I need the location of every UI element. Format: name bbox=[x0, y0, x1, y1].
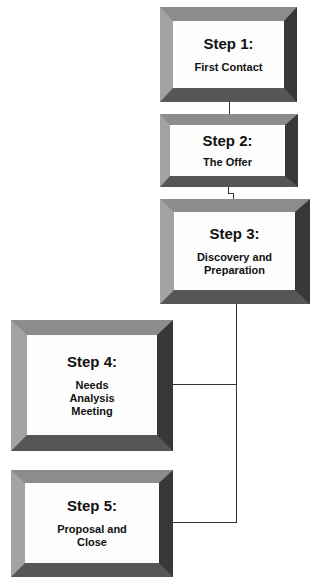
step-2-description: The Offer bbox=[203, 156, 252, 169]
connector-3-5 bbox=[172, 522, 237, 523]
step-1-title: Step 1: bbox=[203, 35, 253, 52]
step-3-title: Step 3: bbox=[209, 225, 259, 242]
step-5-box: Step 5: Proposal and Close bbox=[11, 470, 173, 577]
step-4-title: Step 4: bbox=[67, 353, 117, 370]
step-3-box: Step 3: Discovery and Preparation bbox=[160, 199, 310, 304]
connector-3-4 bbox=[172, 384, 237, 385]
step-4-description: Needs Analysis Meeting bbox=[62, 379, 122, 418]
step-5-description: Proposal and Close bbox=[47, 523, 137, 549]
connector-3-trunk bbox=[236, 303, 237, 523]
step-5-title: Step 5: bbox=[67, 497, 117, 514]
step-1-description: First Contact bbox=[195, 61, 263, 74]
connector-1-2 bbox=[229, 101, 230, 115]
step-4-box: Step 4: Needs Analysis Meeting bbox=[11, 320, 173, 451]
step-2-box: Step 2: The Offer bbox=[160, 114, 298, 187]
step-3-description: Discovery and Preparation bbox=[190, 251, 280, 277]
step-2-title: Step 2: bbox=[202, 132, 252, 149]
connector-2-3-a bbox=[228, 186, 229, 193]
step-1-box: Step 1: First Contact bbox=[160, 7, 297, 102]
